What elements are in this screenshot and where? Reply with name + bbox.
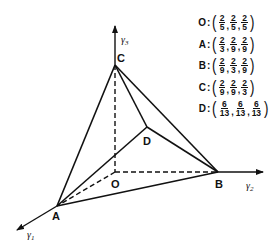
axis-y1: [17, 206, 57, 230]
axis-label-y2: γ2: [246, 180, 254, 193]
colon: :: [207, 103, 210, 114]
close-paren: ): [250, 77, 254, 96]
axis-label-y3: γ3: [121, 34, 129, 47]
vertex-label-B: B: [215, 178, 223, 190]
colon: :: [207, 17, 210, 28]
open-paren: (: [212, 77, 216, 96]
open-paren: (: [212, 34, 216, 53]
coord-point: A: [196, 39, 206, 50]
comma: ,: [238, 64, 241, 74]
vertex-label-O: O: [111, 178, 120, 190]
close-paren: ): [264, 98, 268, 117]
fraction: 29: [230, 79, 237, 96]
fraction: 25: [219, 14, 226, 31]
colon: :: [207, 39, 210, 50]
open-paren: (: [212, 12, 216, 31]
coordinate-legend: O:( 25, 25, 25 ) A:( 23, 29, 29 ) B:( 29…: [196, 12, 279, 120]
colon: :: [207, 82, 210, 93]
vertex-label-A: A: [52, 210, 60, 222]
fraction: 29: [230, 36, 237, 53]
close-paren: ): [250, 34, 254, 53]
coord-point: O: [196, 17, 206, 28]
fraction: 613: [235, 100, 246, 117]
coord-point: C: [196, 82, 206, 93]
comma: ,: [238, 85, 241, 95]
fraction: 29: [219, 79, 226, 96]
comma: ,: [226, 21, 229, 31]
coord-row-C: C:( 29, 29, 23 ): [196, 77, 279, 99]
coord-row-A: A:( 23, 29, 29 ): [196, 34, 279, 56]
fraction: 23: [241, 79, 248, 96]
fraction: 25: [241, 14, 248, 31]
comma: ,: [231, 107, 234, 117]
colon: :: [207, 60, 210, 71]
fraction: 29: [241, 36, 248, 53]
fraction: 29: [241, 57, 248, 74]
vertex-label-C: C: [117, 52, 125, 64]
coord-row-B: B:( 29, 23, 29 ): [196, 55, 279, 77]
coord-row-O: O:( 25, 25, 25 ): [196, 12, 279, 34]
open-paren: (: [212, 55, 216, 74]
edge-O-A: [57, 172, 115, 206]
coord-row-D: D:( 613, 613, 613 ): [196, 98, 279, 120]
coord-point: D: [196, 103, 206, 114]
axis-label-y1: γ1: [27, 229, 34, 242]
fraction: 23: [219, 36, 226, 53]
comma: ,: [226, 64, 229, 74]
comma: ,: [247, 107, 250, 117]
coord-point: B: [196, 60, 206, 71]
open-paren: (: [212, 98, 216, 117]
edge-D-A: [57, 127, 147, 206]
vertex-label-D: D: [143, 135, 151, 147]
close-paren: ): [250, 55, 254, 74]
edge-C-D: [115, 65, 147, 127]
fraction: 25: [230, 14, 237, 31]
fraction: 23: [230, 57, 237, 74]
comma: ,: [238, 21, 241, 31]
fraction: 613: [251, 100, 262, 117]
comma: ,: [226, 42, 229, 52]
fraction: 613: [219, 100, 230, 117]
fraction: 29: [219, 57, 226, 74]
comma: ,: [238, 42, 241, 52]
edge-A-B: [57, 172, 218, 206]
close-paren: ): [250, 12, 254, 31]
edge-D-B: [147, 127, 218, 172]
comma: ,: [226, 85, 229, 95]
edge-C-A: [57, 65, 115, 206]
